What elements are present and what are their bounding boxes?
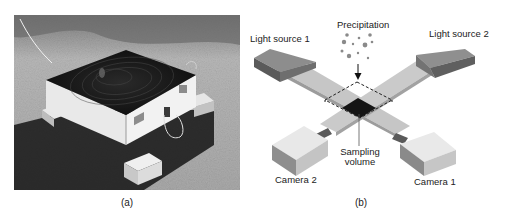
caption-b: (b) xyxy=(349,197,373,208)
label-precipitation: Precipitation xyxy=(337,20,389,30)
label-light-source-1: Light source 1 xyxy=(250,34,310,44)
schematic-panel-b: Precipitation Light source 1 Light sourc… xyxy=(240,0,509,219)
label-camera-1: Camera 1 xyxy=(414,177,456,187)
caption-a: (a) xyxy=(115,197,139,208)
label-sampling-volume-line2: volume xyxy=(337,157,383,167)
instrument-photo xyxy=(14,15,240,190)
photo-panel-a xyxy=(14,15,240,190)
camera-1 xyxy=(400,132,456,176)
label-light-source-2: Light source 2 xyxy=(429,29,489,39)
label-sampling-volume: Sampling volume xyxy=(337,147,383,167)
precipitation-particles xyxy=(341,33,374,59)
label-camera-2: Camera 2 xyxy=(275,175,317,185)
down-arrow-icon xyxy=(355,64,362,80)
